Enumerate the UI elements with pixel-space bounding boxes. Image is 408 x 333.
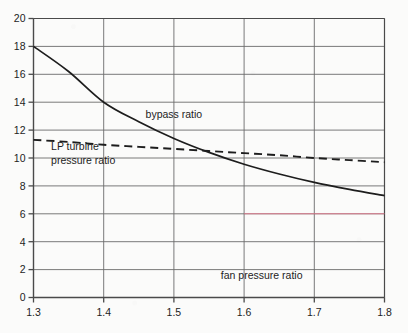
- x-axis-tick-label: 1.4: [96, 306, 111, 318]
- y-axis-tick-label: 20: [14, 12, 26, 24]
- series-label-lp-turbine-line2: pressure ratio: [51, 154, 115, 166]
- x-axis-title: fan pressure ratio: [221, 269, 303, 281]
- x-axis-tick-label: 1.5: [167, 306, 182, 318]
- y-axis-tick-label: 6: [20, 208, 26, 220]
- x-axis-tick-label: 1.8: [377, 306, 392, 318]
- y-axis-tick-label: 0: [20, 291, 26, 303]
- y-axis-tick-label: 8: [20, 180, 26, 192]
- y-axis-tick-label: 12: [14, 124, 26, 136]
- chart-background: [0, 0, 408, 333]
- chart-svg: 02468101214161820 1.31.41.51.61.71.8 byp…: [0, 0, 408, 333]
- x-axis-tick-label: 1.3: [26, 306, 41, 318]
- y-axis-tick-label: 14: [14, 96, 26, 108]
- y-axis-tick-label: 16: [14, 68, 26, 80]
- y-axis-tick-label: 2: [20, 263, 26, 275]
- x-axis-tick-label: 1.7: [307, 306, 322, 318]
- y-axis-tick-label: 4: [20, 236, 26, 248]
- series-label-bypass-ratio: bypass ratio: [146, 108, 203, 120]
- chart-figure: 02468101214161820 1.31.41.51.61.71.8 byp…: [0, 0, 408, 333]
- y-axis-tick-label: 18: [14, 40, 26, 52]
- series-label-lp-turbine-line1: LP turbine: [51, 140, 99, 152]
- y-axis-tick-label: 10: [14, 152, 26, 164]
- x-axis-tick-label: 1.6: [237, 306, 252, 318]
